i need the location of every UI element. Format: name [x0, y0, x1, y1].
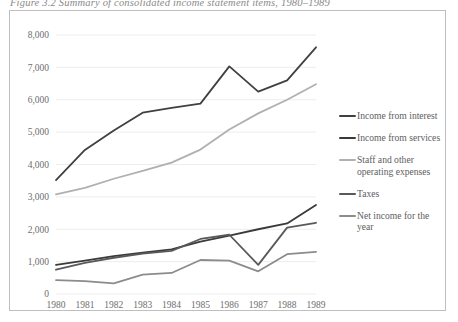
series-line — [56, 84, 316, 194]
y-axis-tick-label: 6,000 — [28, 95, 50, 105]
series-line — [56, 252, 316, 283]
x-axis-tick-label: 1988 — [278, 300, 297, 310]
legend-item-label: Income from services — [357, 132, 440, 144]
chart-frame: 01,0002,0003,0004,0005,0006,0007,0008,00… — [9, 10, 446, 311]
series-line — [56, 205, 316, 265]
x-axis-tick-label: 1985 — [191, 300, 210, 310]
legend-swatch-icon — [339, 137, 356, 139]
x-axis-tick-label: 1987 — [249, 300, 268, 310]
legend-swatch-icon — [339, 193, 356, 195]
legend-swatch-icon — [339, 215, 356, 217]
y-axis-tick-label: 8,000 — [28, 30, 50, 40]
legend-swatch-icon — [339, 115, 356, 117]
y-axis-tick-label: 3,000 — [28, 192, 50, 202]
legend-swatch-icon — [339, 159, 356, 161]
legend-item[interactable]: Staff and other operating expenses — [339, 154, 447, 177]
gridlines — [56, 35, 316, 294]
legend-item-label: Income from interest — [357, 110, 437, 122]
y-axis-tick-label: 7,000 — [28, 63, 50, 73]
series-lines — [56, 47, 316, 283]
y-axis-tick-label: 1,000 — [28, 257, 50, 267]
legend-item[interactable]: Taxes — [339, 188, 447, 200]
legend-item-label: Taxes — [357, 188, 379, 200]
x-axis-tick-labels: 1980198119821983198419851986198719881989 — [47, 300, 326, 310]
x-axis-tick-label: 1989 — [307, 300, 326, 310]
x-axis-tick-label: 1984 — [162, 300, 181, 310]
x-axis-tick-label: 1986 — [220, 300, 239, 310]
legend-item-label: Staff and other operating expenses — [357, 154, 447, 177]
x-axis-tick-label: 1983 — [133, 300, 152, 310]
legend-item[interactable]: Net income for the year — [339, 210, 447, 233]
chart-legend: Income from interestIncome from services… — [339, 110, 447, 243]
y-axis-tick-labels: 01,0002,0003,0004,0005,0006,0007,0008,00… — [28, 30, 50, 299]
y-axis-tick-label: 5,000 — [28, 127, 50, 137]
x-axis-tick-label: 1980 — [47, 300, 66, 310]
x-axis-tick-label: 1982 — [104, 300, 123, 310]
legend-item[interactable]: Income from services — [339, 132, 447, 144]
legend-item-label: Net income for the year — [357, 210, 447, 233]
y-axis-tick-label: 0 — [44, 289, 49, 299]
legend-item[interactable]: Income from interest — [339, 110, 447, 122]
y-axis-tick-label: 2,000 — [28, 225, 50, 235]
x-axis-tick-label: 1981 — [75, 300, 94, 310]
figure-caption: Figure 3.2 Summary of consolidated incom… — [10, 0, 450, 8]
y-axis-tick-label: 4,000 — [28, 160, 50, 170]
